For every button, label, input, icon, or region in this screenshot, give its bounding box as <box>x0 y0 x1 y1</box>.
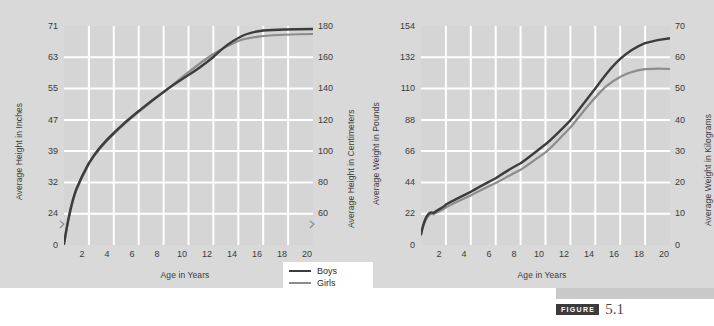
height-chart-xtick-18: 18 <box>275 249 289 259</box>
weight-chart-xtick-16: 16 <box>607 249 621 259</box>
weight-chart-xtick-20: 20 <box>657 249 671 259</box>
weight-chart-xtick-6: 6 <box>482 249 496 259</box>
weight-chart-y2tick-10: 10 <box>675 208 705 218</box>
figure-number: 5.1 <box>605 302 624 317</box>
height-chart-ytick-71: 71 <box>28 21 58 31</box>
height-chart-xtick-20: 20 <box>300 249 314 259</box>
weight-chart-y2tick-40: 40 <box>675 115 705 125</box>
legend-item-boys: Boys <box>289 265 367 277</box>
weight-chart-ytick-88: 88 <box>385 115 415 125</box>
caption-rule <box>556 288 714 299</box>
height-chart-y2tick-100: 100 <box>318 146 348 156</box>
figure-badge: FIGURE <box>556 304 599 316</box>
height-chart-ytick-63: 63 <box>28 52 58 62</box>
legend-swatch-boys <box>289 270 311 272</box>
legend-swatch-girls <box>289 282 311 284</box>
height-chart-y2tick-60: 60 <box>318 208 348 218</box>
weight-chart-y2tick-0: 0 <box>675 240 705 250</box>
weight-chart-ytick-44: 44 <box>385 177 415 187</box>
height-chart-xtick-6: 6 <box>125 249 139 259</box>
height-chart-y2tick-180: 180 <box>318 21 348 31</box>
weight-chart-svg <box>421 26 670 245</box>
weight-chart-xtick-14: 14 <box>582 249 596 259</box>
chart-legend: Boys Girls <box>283 262 373 292</box>
height-chart-xtick-10: 10 <box>175 249 189 259</box>
height-chart-xtick-2: 2 <box>75 249 89 259</box>
legend-label-girls: Girls <box>317 277 336 289</box>
height-chart-y2tick-80: 80 <box>318 177 348 187</box>
figure-caption: FIGURE 5.1 <box>556 302 624 317</box>
weight-chart-y2tick-30: 30 <box>675 146 705 156</box>
height-chart-ytick-32: 32 <box>28 177 58 187</box>
height-chart-ytick-47: 47 <box>28 115 58 125</box>
height-chart-xtick-4: 4 <box>100 249 114 259</box>
weight-chart-y2tick-70: 70 <box>675 21 705 31</box>
weight-chart-ytick-0: 0 <box>385 240 415 250</box>
weight-chart-gridlines <box>421 26 670 245</box>
height-chart-xtick-16: 16 <box>250 249 264 259</box>
charts-panel: Average Height in Inches Average Height … <box>0 0 714 288</box>
weight-chart-ytick-66: 66 <box>385 146 415 156</box>
height-chart-xtick-14: 14 <box>225 249 239 259</box>
weight-chart-y2tick-20: 20 <box>675 177 705 187</box>
weight-chart-ytick-132: 132 <box>385 52 415 62</box>
height-chart-xtick-12: 12 <box>200 249 214 259</box>
weight-chart-y2tick-50: 50 <box>675 83 705 93</box>
legend-item-girls: Girls <box>289 277 367 289</box>
weight-chart-xtick-4: 4 <box>457 249 471 259</box>
height-chart-y2tick-140: 140 <box>318 83 348 93</box>
weight-chart-ytick-22: 22 <box>385 208 415 218</box>
weight-chart-xtick-12: 12 <box>557 249 571 259</box>
weight-chart-xtick-2: 2 <box>432 249 446 259</box>
weight-chart-plot-area <box>421 26 670 245</box>
height-chart-x-axis-title: Age in Years <box>60 270 310 280</box>
height-chart-svg <box>64 26 313 245</box>
height-chart-ytick-55: 55 <box>28 83 58 93</box>
figure-container: Average Height in Inches Average Height … <box>0 0 714 326</box>
height-chart-axis-break-icon <box>58 218 70 230</box>
height-chart-ytick-39: 39 <box>28 146 58 156</box>
height-chart-ytick-24: 24 <box>28 208 58 218</box>
height-chart-plot-area <box>64 26 313 245</box>
height-chart-xtick-8: 8 <box>150 249 164 259</box>
height-chart-y2tick-120: 120 <box>318 115 348 125</box>
height-chart-axis-break-right-icon <box>308 218 320 230</box>
weight-chart: Average Weight in Pounds Average Weight … <box>357 0 714 288</box>
weight-chart-xtick-8: 8 <box>507 249 521 259</box>
height-chart-gridlines <box>64 26 313 245</box>
weight-chart-x-axis-title: Age in Years <box>417 270 667 280</box>
weight-chart-y2tick-60: 60 <box>675 52 705 62</box>
legend-label-boys: Boys <box>317 265 337 277</box>
weight-chart-y-axis-title: Average Weight in Pounds <box>371 102 381 205</box>
height-chart: Average Height in Inches Average Height … <box>0 0 357 288</box>
weight-chart-ytick-110: 110 <box>385 83 415 93</box>
height-chart-ytick-0: 0 <box>28 240 58 250</box>
weight-chart-xtick-18: 18 <box>632 249 646 259</box>
height-chart-y-axis-title: Average Height in Inches <box>14 103 24 200</box>
height-chart-y2tick-160: 160 <box>318 52 348 62</box>
weight-chart-ytick-154: 154 <box>385 21 415 31</box>
weight-chart-xtick-10: 10 <box>532 249 546 259</box>
